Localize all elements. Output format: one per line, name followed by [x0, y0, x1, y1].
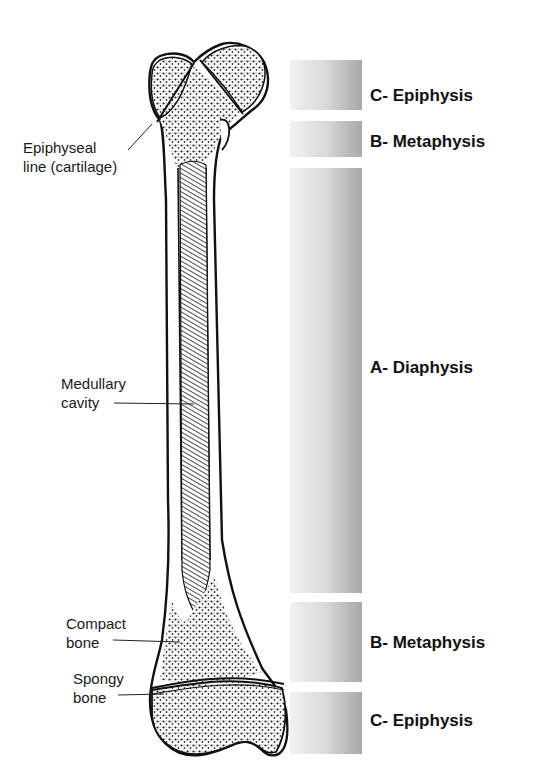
- bar-distal-metaphysis: [290, 602, 362, 682]
- bar-diaphysis: [290, 168, 362, 593]
- bone-diagram: C- Epiphysis B- Metaphysis A- Diaphysis …: [0, 0, 548, 772]
- distal-epiphysis: [152, 681, 285, 754]
- label-spongy-bone-2: bone: [73, 688, 124, 707]
- label-medullary-cavity: Medullary cavity: [61, 374, 126, 412]
- region-label-proximal-metaphysis: B- Metaphysis: [370, 132, 485, 152]
- label-spongy-bone: Spongy bone: [73, 669, 124, 707]
- region-label-diaphysis: A- Diaphysis: [370, 358, 473, 378]
- region-label-proximal-epiphysis: C- Epiphysis: [370, 86, 473, 106]
- label-compact-bone-1: Compact: [66, 614, 126, 633]
- region-label-distal-epiphysis: C- Epiphysis: [370, 711, 473, 731]
- bar-proximal-epiphysis: [290, 60, 362, 110]
- label-medullary-cavity-2: cavity: [61, 393, 126, 412]
- bar-distal-epiphysis: [290, 692, 362, 754]
- label-epiphyseal-line-1: Epiphyseal: [23, 138, 117, 157]
- label-epiphyseal-line-2: line (cartilage): [23, 157, 117, 176]
- label-medullary-cavity-1: Medullary: [61, 374, 126, 393]
- label-compact-bone-2: bone: [66, 633, 126, 652]
- label-spongy-bone-1: Spongy: [73, 669, 124, 688]
- medullary-cavity: [180, 161, 210, 612]
- region-label-distal-metaphysis: B- Metaphysis: [370, 633, 485, 653]
- bar-proximal-metaphysis: [290, 121, 362, 157]
- label-epiphyseal-line: Epiphyseal line (cartilage): [23, 138, 117, 176]
- label-compact-bone: Compact bone: [66, 614, 126, 652]
- lesser-trochanter: [220, 120, 229, 150]
